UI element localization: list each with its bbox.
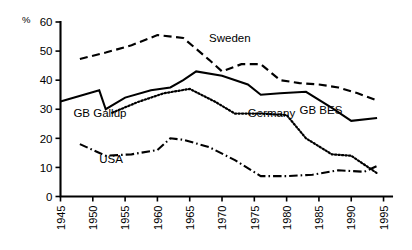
x-tick-label: 1950 bbox=[87, 206, 99, 230]
y-axis-unit-label: % bbox=[22, 14, 31, 25]
line-chart-figure: 0102030405060 19451950195519601965197019… bbox=[0, 0, 412, 250]
y-tick-label: 40 bbox=[40, 74, 53, 86]
series-label-usa: USA bbox=[99, 153, 123, 165]
chart-canvas: 0102030405060 19451950195519601965197019… bbox=[0, 0, 412, 250]
x-tick-label: 1960 bbox=[152, 206, 164, 230]
y-tick-label: 20 bbox=[40, 133, 53, 145]
x-tick-label: 1955 bbox=[119, 206, 131, 230]
y-tick-label: 60 bbox=[40, 16, 53, 28]
x-tick-label: 1965 bbox=[184, 206, 196, 230]
series-label-germany: Germany bbox=[248, 107, 296, 119]
x-tick-label: 1975 bbox=[249, 206, 261, 230]
chart-axes: 0102030405060 19451950195519601965197019… bbox=[22, 14, 392, 230]
x-tick-label: 1980 bbox=[281, 206, 293, 230]
x-tick-label: 1990 bbox=[345, 206, 357, 230]
series-label-gb-gallup: GB Gallup bbox=[73, 107, 126, 119]
x-tick-label: 1985 bbox=[313, 206, 325, 230]
series-line-usa bbox=[80, 138, 377, 176]
y-tick-label: 10 bbox=[40, 162, 53, 174]
y-tick-label: 50 bbox=[40, 45, 53, 57]
x-tick-label: 1995 bbox=[378, 206, 390, 230]
x-tick-label: 1970 bbox=[216, 206, 228, 230]
x-axis-tick-labels: 1945195019551960196519701975198019851990… bbox=[55, 206, 390, 230]
y-tick-label: 30 bbox=[40, 103, 53, 115]
x-tick-label: 1945 bbox=[55, 206, 67, 230]
series-label-sweden: Sweden bbox=[209, 32, 251, 44]
series-line-sweden bbox=[80, 35, 377, 100]
y-tick-label: 0 bbox=[46, 191, 52, 203]
series-label-gb-bes: GB BES bbox=[300, 104, 343, 116]
series-line-germany bbox=[112, 89, 377, 173]
y-axis-tick-labels: 0102030405060 bbox=[40, 16, 53, 203]
